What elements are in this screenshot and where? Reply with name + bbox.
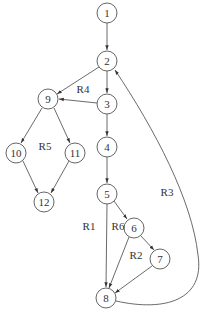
nodes: 1 2 3 4 5 6 7 8 [6, 3, 170, 308]
node-10: 10 [6, 143, 26, 163]
node-label: 7 [157, 253, 163, 265]
node-3: 3 [97, 94, 117, 114]
node-5: 5 [97, 184, 117, 204]
edge-8-2 [115, 70, 199, 305]
node-8: 8 [96, 288, 116, 308]
node-label: 5 [104, 188, 110, 200]
edge-10-12 [23, 161, 38, 193]
node-12: 12 [34, 192, 54, 212]
node-label: 4 [104, 141, 110, 153]
node-9: 9 [38, 89, 58, 109]
node-label: 2 [104, 55, 110, 67]
node-label: 6 [131, 222, 137, 234]
region-label-r5: R5 [39, 140, 52, 152]
edge-9-10 [21, 108, 42, 143]
node-label: 8 [103, 292, 109, 304]
edge-9-11 [54, 108, 70, 143]
region-label-r3: R3 [161, 186, 174, 198]
node-label: 9 [45, 93, 51, 105]
edge-3-9 [59, 99, 97, 103]
edge-5-6 [114, 201, 127, 219]
node-1: 1 [97, 3, 117, 23]
edge-7-8 [115, 266, 152, 293]
node-label: 3 [104, 98, 110, 110]
region-label-r4: R4 [77, 83, 90, 95]
node-label: 12 [39, 196, 50, 208]
node-7: 7 [150, 249, 170, 269]
node-2: 2 [97, 51, 117, 71]
region-label-r6: R6 [112, 220, 125, 232]
node-6: 6 [124, 218, 144, 238]
node-11: 11 [65, 143, 85, 163]
edge-5-8 [106, 204, 107, 287]
region-label-r2: R2 [130, 249, 143, 261]
edge-11-12 [51, 161, 69, 193]
node-label: 11 [70, 147, 81, 159]
region-label-r1: R1 [83, 220, 96, 232]
node-label: 10 [11, 147, 23, 159]
edge-6-8 [109, 237, 129, 288]
edge-6-7 [141, 236, 154, 250]
node-4: 4 [97, 137, 117, 157]
control-flow-graph: 1 2 3 4 5 6 7 8 [0, 0, 205, 314]
node-label: 1 [104, 7, 110, 19]
